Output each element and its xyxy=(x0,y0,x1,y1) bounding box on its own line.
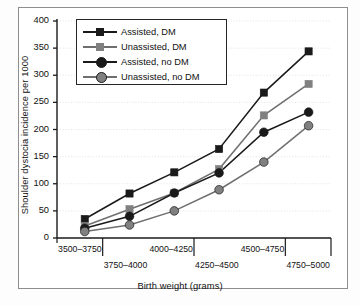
legend-square-icon xyxy=(83,24,117,39)
x-tick-label: 4000–4250 xyxy=(136,244,206,254)
y-tick-label: 250 xyxy=(15,96,49,106)
y-tick-label: 150 xyxy=(15,151,49,161)
legend-label: Assisted, no DM xyxy=(117,57,189,67)
legend-circle-icon xyxy=(83,69,117,84)
x-tick-label: 3500–3750 xyxy=(45,244,115,254)
x-tick-label: 4750–5000 xyxy=(273,260,343,270)
y-tick-label: 100 xyxy=(15,178,49,188)
legend-circle-icon xyxy=(83,54,117,69)
x-tick-label: 4500–4750 xyxy=(228,244,298,254)
x-axis-title: Birth weight (grams) xyxy=(0,281,360,291)
legend-label: Unassisted, no DM xyxy=(117,72,200,82)
y-tick-label: 0 xyxy=(15,232,49,242)
legend-square-icon xyxy=(83,39,117,54)
chart-legend: Assisted, DMUnassisted, DMAssisted, no D… xyxy=(76,19,227,85)
x-tick-label: 3750–4000 xyxy=(91,260,161,270)
chart-figure: Shoulder dystocia incidence per 1000 Bir… xyxy=(0,0,360,305)
legend-item-3: Assisted, no DM xyxy=(77,54,226,69)
x-tick-label: 4250–4500 xyxy=(182,260,252,270)
y-tick-label: 300 xyxy=(15,69,49,79)
y-tick-label: 50 xyxy=(15,205,49,215)
y-tick-label: 350 xyxy=(15,42,49,52)
legend-label: Unassisted, DM xyxy=(117,42,187,52)
y-tick-label: 200 xyxy=(15,124,49,134)
legend-label: Assisted, DM xyxy=(117,27,176,37)
legend-item-4: Unassisted, no DM xyxy=(77,69,226,84)
legend-item-1: Assisted, DM xyxy=(77,24,226,39)
y-tick-label: 400 xyxy=(15,15,49,25)
legend-item-2: Unassisted, DM xyxy=(77,39,226,54)
